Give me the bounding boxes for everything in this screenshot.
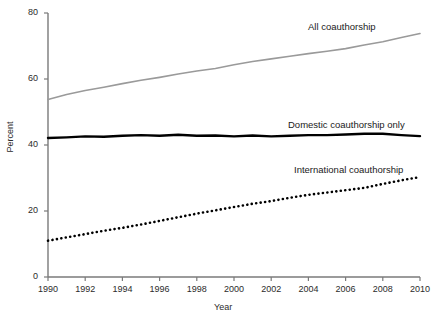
x-axis-title: Year xyxy=(214,302,232,312)
x-tick-label: 2008 xyxy=(363,284,403,294)
x-tick-label: 1998 xyxy=(177,284,217,294)
x-tick-label: 1992 xyxy=(65,284,105,294)
series-label: All coauthorship xyxy=(308,21,376,32)
x-tick-label: 2010 xyxy=(400,284,440,294)
series-line xyxy=(48,177,420,241)
series-line xyxy=(48,33,420,99)
coauthorship-line-chart: Percent Year 020406080 19901992199419961… xyxy=(0,0,443,322)
series-lines xyxy=(48,33,420,240)
axis-lines xyxy=(48,13,420,277)
x-tick-label: 2004 xyxy=(288,284,328,294)
series-label: International coauthorship xyxy=(294,164,403,175)
plot-area xyxy=(0,0,443,322)
series-line xyxy=(48,134,420,138)
y-tick-label: 60 xyxy=(12,73,38,83)
y-tick-label: 0 xyxy=(12,271,38,281)
x-tick-label: 1996 xyxy=(140,284,180,294)
y-tick-label: 20 xyxy=(12,205,38,215)
x-tick-label: 1994 xyxy=(102,284,142,294)
x-tick-label: 2000 xyxy=(214,284,254,294)
series-label: Domestic coauthorship only xyxy=(288,119,405,130)
x-tick-label: 2002 xyxy=(251,284,291,294)
y-tick-label: 80 xyxy=(12,7,38,17)
y-axis-title-wrapper: Percent xyxy=(0,107,17,167)
x-tick-label: 1990 xyxy=(28,284,68,294)
x-tick-label: 2006 xyxy=(326,284,366,294)
y-tick-label: 40 xyxy=(12,139,38,149)
